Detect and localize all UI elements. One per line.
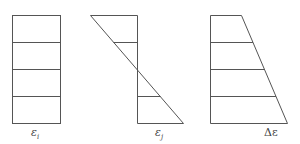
uniform-strain-panel [13, 16, 61, 124]
strain-diagram [0, 0, 300, 144]
label-epsilon-j: εj [155, 126, 163, 141]
linear-strain-panel [91, 16, 184, 124]
strain-difference-panel [211, 16, 288, 124]
label-epsilon-i: εi [31, 126, 39, 141]
label-delta-epsilon: Δε [264, 126, 278, 139]
